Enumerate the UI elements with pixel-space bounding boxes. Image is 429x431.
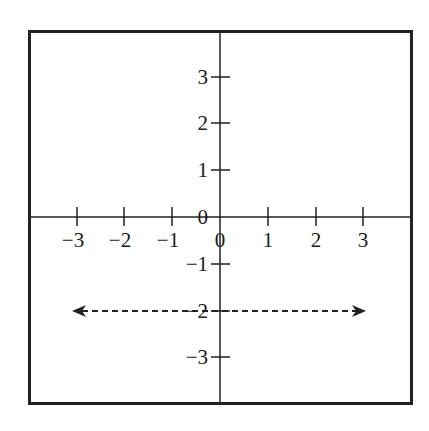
- coordinate-plane: −3−2−10123 3210−1−2−3: [0, 0, 429, 431]
- x-tick-label: 0: [215, 228, 226, 252]
- x-tick-label: −2: [109, 228, 131, 252]
- x-tick-label: 1: [263, 228, 274, 252]
- y-tick-label: −1: [186, 252, 208, 276]
- x-tick-label: −1: [157, 228, 179, 252]
- y-tick-label: 2: [198, 111, 209, 135]
- y-tick-label: 1: [198, 158, 209, 182]
- x-ticks: −3−2−10123: [62, 207, 368, 252]
- x-tick-label: −3: [62, 228, 84, 252]
- y-tick-label: 0: [198, 205, 209, 229]
- x-tick-label: 3: [358, 228, 369, 252]
- y-tick-label: −3: [186, 345, 208, 369]
- y-tick-label: 3: [198, 65, 209, 89]
- x-tick-label: 2: [311, 228, 322, 252]
